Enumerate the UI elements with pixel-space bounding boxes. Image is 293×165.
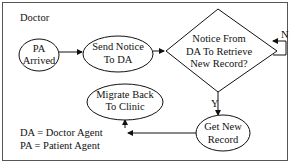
svg-text:New Record?: New Record? [190,58,248,69]
svg-text:To DA: To DA [104,54,133,65]
svg-text:Migrate Back: Migrate Back [96,89,154,100]
svg-text:Send Notice: Send Notice [92,41,144,52]
legend-item: DA = Doctor Agent [20,127,103,139]
legend-item: PA = Patient Agent [20,140,100,152]
node-migrate-back: Migrate Back To Clinic [87,84,163,120]
node-decision: Notice From DA To Retrieve New Record? [166,9,277,92]
node-send-notice: Send Notice To DA [83,36,153,72]
svg-text:Notice From: Notice From [192,33,245,44]
svg-text:To Clinic: To Clinic [105,101,145,112]
node-pa-arrived: PA Arrived [19,39,59,71]
edge-label-yes: Y [211,98,219,109]
edge-label-no: N [281,29,289,40]
svg-text:PA: PA [33,43,46,54]
node-get-record: Get New Record [196,115,250,151]
svg-text:Get New: Get New [204,121,242,132]
svg-text:DA To Retrieve: DA To Retrieve [186,46,252,57]
svg-text:Arrived: Arrived [23,55,56,66]
svg-text:Record: Record [208,134,239,145]
